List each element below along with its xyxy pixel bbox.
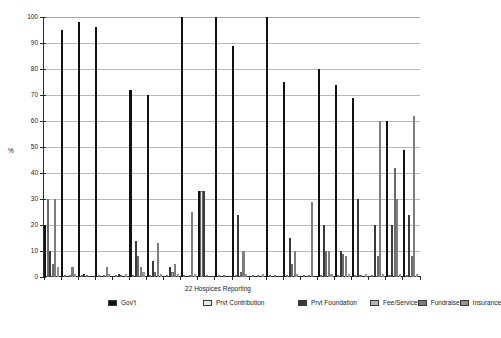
legend-item-insurance[interactable]: Insurance (460, 300, 501, 307)
x-axis-title: 22 Hospices Reporting (0, 286, 436, 293)
legend-swatch-icon (298, 300, 307, 306)
x-axis-tick-mark (249, 276, 250, 280)
bar-group (181, 17, 198, 277)
x-axis-tick-mark (180, 276, 181, 280)
legend-item-fundraise[interactable]: Fundraise (418, 300, 460, 307)
bar (125, 274, 127, 277)
x-axis-tick-mark (197, 276, 198, 280)
bar (54, 199, 56, 277)
bar (78, 22, 80, 277)
bar (359, 275, 361, 277)
bar (257, 275, 259, 277)
x-axis-tick-mark (300, 276, 301, 280)
y-axis-tick-label: 80 (31, 66, 43, 73)
bar (108, 274, 110, 277)
bar (328, 251, 330, 277)
bar (181, 17, 183, 277)
bar (330, 274, 332, 277)
x-axis-tick-mark (214, 276, 215, 280)
bar-group (232, 17, 249, 277)
bar-group (300, 17, 317, 277)
legend-label: Prvt Foundation (311, 300, 357, 307)
bar (129, 90, 131, 277)
legend-label: Prvt Contribution (216, 300, 264, 307)
bar (120, 275, 122, 277)
bar (142, 272, 144, 277)
x-axis-tick-mark (351, 276, 352, 280)
bar (215, 17, 217, 277)
bar (61, 30, 63, 277)
bar (98, 275, 100, 277)
bar (218, 275, 220, 277)
bar (357, 199, 359, 277)
y-axis-tick-label: 90 (31, 40, 43, 47)
x-axis-tick-mark (232, 276, 233, 280)
x-axis-tick-mark (385, 276, 386, 280)
bar-group (249, 17, 266, 277)
bar-group (369, 17, 386, 277)
bar-group (78, 17, 95, 277)
bar (57, 267, 59, 277)
legend-swatch-icon (370, 300, 379, 306)
y-axis-tick-label: 30 (31, 196, 43, 203)
bar (223, 275, 225, 277)
legend-label: Insurance (473, 300, 501, 307)
bar-group (283, 17, 300, 277)
bar-group (318, 17, 335, 277)
x-axis-tick-mark (78, 276, 79, 280)
bar-group (129, 17, 146, 277)
bar-group (112, 17, 129, 277)
bar-group (147, 17, 164, 277)
x-axis-tick-mark (129, 276, 130, 280)
bar (311, 202, 313, 277)
bar (382, 274, 384, 277)
y-axis-tick-label: 0 (34, 274, 43, 281)
bar (191, 212, 193, 277)
bar (160, 274, 162, 277)
x-axis-tick-mark (266, 276, 267, 280)
legend-label: Fee/Service (383, 300, 418, 307)
bar-group (198, 17, 215, 277)
bar (274, 275, 276, 277)
bar-group (266, 17, 283, 277)
y-axis-tick-label: 60 (31, 118, 43, 125)
legend-item-gov-t[interactable]: Gov't (108, 300, 203, 307)
x-axis-tick-mark (334, 276, 335, 280)
bar (242, 251, 244, 277)
x-axis-tick-mark (163, 276, 164, 280)
bar (403, 150, 405, 277)
bar (232, 46, 234, 277)
bar-group (335, 17, 352, 277)
legend-item-prvt-contribution[interactable]: Prvt Contribution (203, 300, 298, 307)
y-axis-title: % (8, 148, 14, 155)
x-axis-tick-mark (283, 276, 284, 280)
legend-item-prvt-foundation[interactable]: Prvt Foundation (298, 300, 370, 307)
x-axis-tick-mark (61, 276, 62, 280)
bar (206, 275, 208, 277)
bar (177, 274, 179, 277)
x-axis-tick-mark (146, 276, 147, 280)
bar (64, 275, 66, 277)
bar (379, 121, 381, 277)
bar (157, 243, 159, 277)
bar (283, 82, 285, 277)
bar-group (95, 17, 112, 277)
bar (335, 85, 337, 277)
bar (303, 275, 305, 277)
bar (183, 275, 185, 277)
bar (399, 274, 401, 277)
y-axis-tick-label: 10 (31, 248, 43, 255)
bar (348, 274, 350, 277)
bar (203, 191, 205, 277)
bar (266, 17, 268, 277)
chart-legend: Gov'tPrvt ContributionPrvt FoundationFee… (108, 298, 370, 309)
legend-item-fee-service[interactable]: Fee/Service (370, 300, 418, 307)
bar-group (44, 17, 61, 277)
bar-group (403, 17, 420, 277)
bar (396, 199, 398, 277)
bar-groups (43, 17, 420, 277)
bar (147, 95, 149, 277)
x-axis-tick-mark (317, 276, 318, 280)
bar (386, 121, 388, 277)
